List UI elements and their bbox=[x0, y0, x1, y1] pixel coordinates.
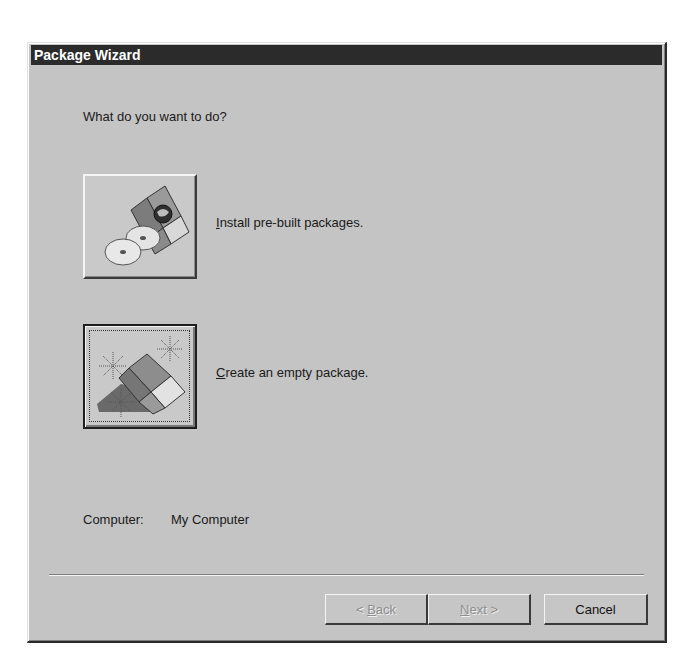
install-packages-label[interactable]: Install pre-built packages. bbox=[216, 215, 363, 230]
computer-label: Computer: bbox=[83, 512, 144, 527]
window-title: Package Wizard bbox=[34, 47, 140, 63]
package-wizard-dialog: Package Wizard What do you want to do? I… bbox=[27, 42, 667, 643]
mnemonic-b: B bbox=[367, 602, 376, 617]
cancel-label: Cancel bbox=[575, 602, 615, 617]
title-bar[interactable]: Package Wizard bbox=[31, 45, 662, 65]
separator bbox=[49, 574, 644, 576]
install-packages-button[interactable] bbox=[83, 174, 197, 279]
label-text: reate an empty package. bbox=[225, 365, 368, 380]
mnemonic-c: C bbox=[216, 365, 225, 380]
back-button[interactable]: < Back bbox=[325, 594, 428, 625]
prompt-text: What do you want to do? bbox=[83, 109, 227, 124]
cancel-button[interactable]: Cancel bbox=[544, 594, 648, 625]
mnemonic-n: N bbox=[460, 602, 469, 617]
next-button[interactable]: Next > bbox=[428, 594, 531, 625]
back-rest: ack bbox=[376, 602, 396, 617]
new-box-sparkle-icon bbox=[85, 326, 195, 427]
create-empty-package-button[interactable] bbox=[83, 324, 197, 429]
computer-value: My Computer bbox=[171, 512, 249, 527]
back-prefix: < bbox=[356, 602, 367, 617]
create-empty-package-label[interactable]: Create an empty package. bbox=[216, 365, 368, 380]
next-rest: ext > bbox=[469, 602, 498, 617]
label-text: nstall pre-built packages. bbox=[220, 215, 364, 230]
box-with-cds-icon bbox=[85, 176, 195, 277]
